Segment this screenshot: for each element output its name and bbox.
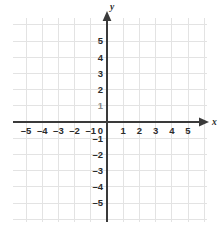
x-tick-label: 5 [185, 125, 191, 136]
origin-label: 0 [98, 125, 103, 136]
y-tick-label: 2 [98, 84, 103, 95]
coordinate-grid-svg: x y –5–4–3–2–112345 54321–1–2–3–4–5 0 [0, 0, 222, 239]
y-tick-label: 5 [98, 35, 104, 46]
x-tick-label: –2 [69, 125, 80, 136]
y-tick-label: –4 [92, 181, 103, 192]
y-tick-label: –2 [92, 149, 103, 160]
x-tick-label: –3 [53, 125, 64, 136]
x-tick-label: 4 [169, 125, 175, 136]
y-tick-label: 4 [98, 52, 104, 63]
y-tick-label: –5 [92, 197, 103, 208]
x-tick-label: –4 [37, 125, 48, 136]
y-tick-label: 1 [98, 100, 104, 111]
coordinate-plane: x y –5–4–3–2–112345 54321–1–2–3–4–5 0 [0, 0, 222, 239]
y-tick-label: –3 [92, 165, 103, 176]
x-tick-label: –5 [21, 125, 32, 136]
x-tick-labels: –5–4–3–2–112345 [21, 125, 192, 136]
y-tick-label: 3 [98, 68, 103, 79]
grid-lines [13, 18, 207, 222]
x-tick-label: 3 [153, 125, 158, 136]
x-tick-label: 1 [121, 125, 127, 136]
y-axis-arrow [103, 11, 112, 21]
y-axis-label: y [109, 2, 115, 12]
x-axis-label: x [211, 117, 217, 127]
x-tick-label: 2 [137, 125, 142, 136]
